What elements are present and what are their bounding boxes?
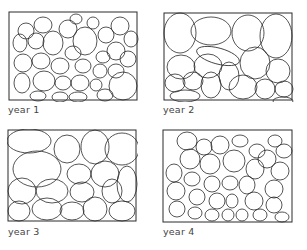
panel-year-4	[162, 129, 294, 223]
cell-diagram-year-3	[7, 129, 138, 222]
panel-year-1	[8, 11, 139, 102]
cell-diagram-year-1	[8, 11, 139, 102]
cell-diagram-year-4	[162, 129, 294, 223]
panel-year-3	[7, 129, 138, 222]
cell-diagram-year-2	[163, 11, 294, 102]
panel-label-year-4: year 4	[163, 226, 194, 237]
panel-year-2	[163, 11, 294, 102]
panel-label-year-2: year 2	[163, 104, 194, 115]
panel-label-year-3: year 3	[8, 226, 39, 237]
panel-label-year-1: year 1	[8, 104, 39, 115]
